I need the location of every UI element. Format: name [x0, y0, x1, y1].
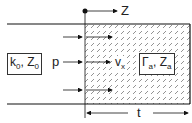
left-medium-box: k0, Z0 [7, 53, 42, 75]
v-subscript: x [121, 62, 125, 71]
separator: , [153, 55, 160, 69]
z-axis-label: Z [121, 4, 129, 17]
gamma-symbol: Γ [142, 55, 149, 69]
thickness-label: t [137, 106, 141, 119]
layer-medium-box: Γa, Za [139, 53, 175, 75]
z0-subscript: 0 [34, 62, 38, 71]
pressure-label: p [52, 55, 59, 68]
za-symbol: Z [160, 55, 167, 69]
za-subscript: a [167, 62, 171, 71]
velocity-label: vx [114, 56, 126, 71]
